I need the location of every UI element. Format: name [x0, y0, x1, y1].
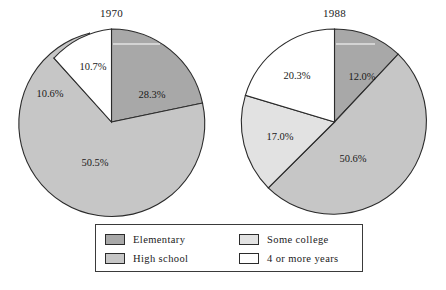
legend-swatch-some-college [239, 234, 259, 245]
legend-swatch-four-or-more-years [239, 253, 259, 264]
pie-panel-1970: 1970 28.3% 50.5% 10.6% 10.7% [0, 0, 223, 222]
legend-label-four-or-more-years: 4 or more years [267, 253, 339, 264]
pie-title-1988: 1988 [223, 7, 446, 19]
pie-label-1970-highschool: 50.5% [81, 157, 108, 168]
legend-item-elementary: Elementary [105, 232, 185, 246]
legend-item-high-school: High school [105, 251, 188, 265]
pie-label-1988-fourplus: 20.3% [283, 70, 310, 81]
pie-label-1970-fourplus: 10.7% [79, 61, 106, 72]
pie-label-1970-somecollege: 10.6% [36, 88, 63, 99]
pie-graphic-1970: 28.3% 50.5% 10.6% 10.7% [0, 26, 223, 220]
legend-column-right: Some college 4 or more years [230, 225, 364, 271]
pie-label-1988-elementary: 12.0% [348, 71, 375, 82]
legend-swatch-high-school [105, 253, 125, 264]
pie-title-1970: 1970 [0, 7, 223, 19]
legend-swatch-elementary [105, 234, 125, 245]
legend-item-four-or-more-years: 4 or more years [239, 251, 339, 265]
pie-label-1988-highschool: 50.6% [339, 153, 366, 164]
legend-label-some-college: Some college [267, 234, 329, 245]
legend-label-high-school: High school [133, 253, 188, 264]
pie-chart-figure: 1970 28.3% 50.5% 10.6% 10.7% [0, 0, 446, 290]
pie-label-1970-elementary: 28.3% [138, 89, 165, 100]
legend-label-elementary: Elementary [133, 234, 185, 245]
pie-panel-1988: 1988 12.0% 50.6% 17.0% 20.3% [223, 0, 446, 222]
legend-column-left: Elementary High school [96, 225, 230, 271]
pie-label-1988-somecollege: 17.0% [266, 131, 293, 142]
pie-graphic-1988: 12.0% 50.6% 17.0% 20.3% [223, 26, 446, 220]
legend-item-some-college: Some college [239, 232, 329, 246]
legend: Elementary High school Some college 4 or… [95, 224, 363, 272]
